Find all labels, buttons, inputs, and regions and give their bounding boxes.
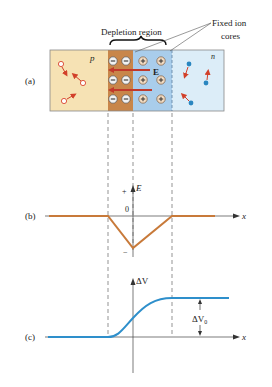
fixed-ion-cores-label-2: cores	[221, 31, 240, 41]
minus-mark: −	[123, 248, 128, 257]
x-axis-label: x	[241, 211, 246, 221]
panel-a-label: (a)	[25, 76, 35, 86]
panel-b-electric-field-plot: + E 0 − x (b)	[25, 183, 246, 257]
x-axis-label: x	[241, 332, 246, 342]
e-axis-label: E	[135, 183, 142, 193]
zero-label: 0	[125, 205, 129, 214]
depletion-region-label: Depletion region	[101, 27, 162, 37]
panel-b-label: (b)	[25, 211, 36, 221]
n-label: n	[211, 52, 215, 61]
p-label: p	[89, 53, 95, 63]
plus-mark: +	[122, 187, 127, 196]
n-region	[172, 50, 224, 111]
pn-junction-diagram: E p n (a) Depletion region Fixed ion	[0, 0, 272, 387]
field-label: E	[153, 67, 159, 77]
p-region	[50, 50, 108, 111]
delta-v0-label: ΔV0	[192, 314, 207, 325]
fixed-ion-cores-label: Fixed ion	[212, 18, 247, 28]
panel-a: E p n (a) Depletion region Fixed ion	[25, 18, 247, 111]
panel-c-label: (c)	[25, 332, 35, 342]
panel-c-potential-plot: ΔV ΔV0 x (c)	[25, 276, 246, 373]
electric-field-curve	[49, 216, 215, 248]
delta-v-axis-label: ΔV	[136, 276, 149, 286]
